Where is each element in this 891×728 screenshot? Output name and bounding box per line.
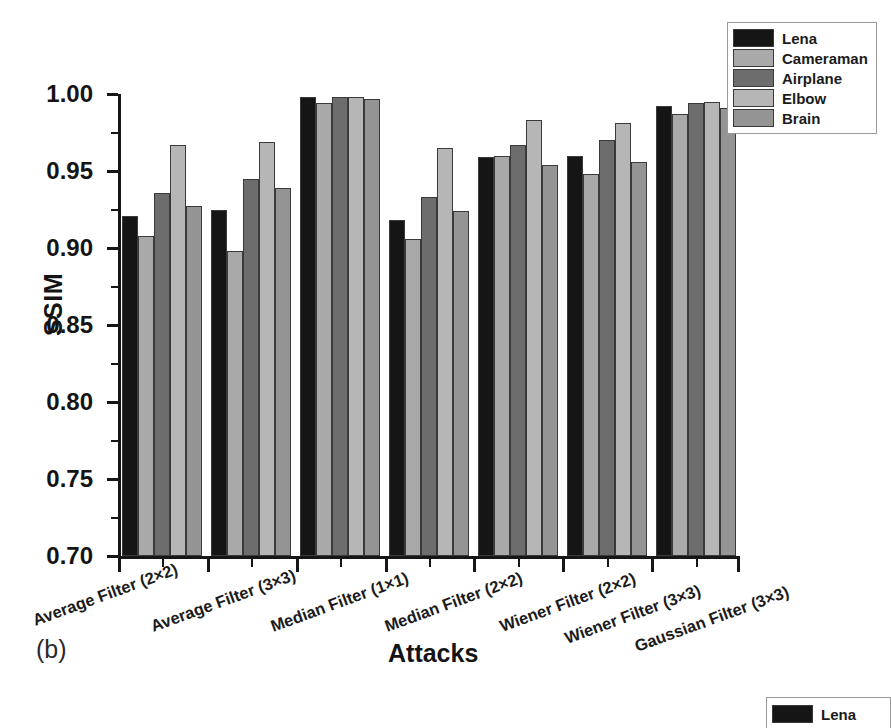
bar (656, 106, 672, 556)
bar (122, 216, 138, 556)
legend-item: Cameraman (733, 48, 868, 68)
y-tick-major: 0.90 (107, 247, 118, 250)
chart-legend: LenaCameramanAirplaneElbowBrain (727, 22, 877, 134)
legend-label: Elbow (782, 90, 826, 107)
bar (542, 165, 558, 556)
legend-label: Airplane (782, 70, 842, 87)
legend-label: Cameraman (782, 50, 868, 67)
bar (332, 97, 348, 556)
y-tick-major: 0.80 (107, 401, 118, 404)
bar (275, 188, 291, 556)
bar (405, 239, 421, 556)
bar (138, 236, 154, 556)
x-tick-major (118, 559, 121, 572)
bar (615, 123, 631, 556)
legend-item: Brain (733, 108, 868, 128)
y-tick-major: 1.00 (107, 93, 118, 96)
bar (227, 251, 243, 556)
bar (478, 157, 494, 556)
x-tick-minor (696, 559, 698, 567)
y-tick-label: 0.70 (46, 542, 93, 570)
bar (631, 162, 647, 556)
x-tick-minor (429, 559, 431, 567)
bar (599, 140, 615, 556)
bar (494, 156, 510, 556)
bar (186, 206, 202, 556)
legend-label: Brain (782, 110, 820, 127)
y-tick-minor (111, 209, 118, 211)
x-tick-major (737, 559, 740, 572)
y-tick-major: 0.75 (107, 478, 118, 481)
x-tick-major (296, 559, 299, 572)
x-tick-minor (607, 559, 609, 567)
y-tick-label: 0.85 (46, 311, 93, 339)
bar (720, 108, 736, 556)
legend-item: Elbow (733, 88, 868, 108)
bar (348, 97, 364, 556)
bar (170, 145, 186, 556)
chart-legend-partial-next-figure: Lena (766, 697, 891, 728)
x-tick-major (385, 559, 388, 572)
bar (211, 210, 227, 557)
x-tick-major (651, 559, 654, 572)
y-tick-minor (111, 440, 118, 442)
legend-swatch (733, 49, 774, 67)
legend-swatch (772, 705, 813, 723)
bar (364, 99, 380, 556)
plot-area: 1.000.950.900.850.800.750.70 (118, 94, 740, 559)
bar (437, 148, 453, 556)
x-tick-minor (518, 559, 520, 567)
y-tick-label: 0.75 (46, 465, 93, 493)
y-tick-major: 0.70 (107, 555, 118, 558)
x-tick-major (207, 559, 210, 572)
y-tick-label: 0.95 (46, 157, 93, 185)
y-axis-line (118, 94, 121, 559)
bar (259, 142, 275, 556)
bar (688, 103, 704, 556)
legend-item: Lena (772, 704, 882, 724)
legend-label: Lena (821, 706, 856, 723)
legend-swatch (733, 69, 774, 87)
x-axis-title: Attacks (388, 639, 478, 668)
bar (154, 193, 170, 556)
bar (583, 174, 599, 556)
legend-swatch (733, 109, 774, 127)
y-tick-label: 0.80 (46, 388, 93, 416)
bar (300, 97, 316, 556)
y-tick-major: 0.85 (107, 324, 118, 327)
bar (672, 114, 688, 556)
legend-item: Airplane (733, 68, 868, 88)
x-tick-major (473, 559, 476, 572)
legend-swatch (733, 29, 774, 47)
x-category-label: Gaussian Filter (3×3) (632, 582, 791, 656)
bar (567, 156, 583, 556)
y-tick-label: 0.90 (46, 234, 93, 262)
panel-label: (b) (36, 635, 67, 664)
bar (316, 103, 332, 556)
bar (526, 120, 542, 556)
y-tick-minor (111, 517, 118, 519)
bar (243, 179, 259, 556)
y-tick-major: 0.95 (107, 170, 118, 173)
y-tick-minor (111, 132, 118, 134)
x-tick-minor (340, 559, 342, 567)
y-tick-label: 1.00 (46, 80, 93, 108)
bar (704, 102, 720, 556)
bar (421, 197, 437, 556)
bar (453, 211, 469, 556)
x-tick-minor (251, 559, 253, 567)
legend-swatch (733, 89, 774, 107)
legend-label: Lena (782, 30, 817, 47)
x-tick-major (562, 559, 565, 572)
bar (510, 145, 526, 556)
figure-panel-b: SSIM 1.000.950.900.850.800.750.70 Averag… (0, 0, 891, 728)
y-tick-minor (111, 363, 118, 365)
y-tick-minor (111, 286, 118, 288)
legend-item: Lena (733, 28, 868, 48)
bar (389, 220, 405, 556)
